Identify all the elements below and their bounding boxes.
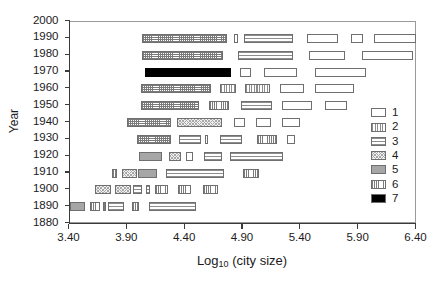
- bar-1990-6: [374, 34, 417, 43]
- bar-1890-3: [103, 202, 106, 211]
- bar-1910-2: [122, 169, 137, 178]
- bar-1910-1: [112, 169, 117, 178]
- bar-1920-3: [186, 152, 193, 161]
- bar-1960-3: [245, 84, 269, 93]
- bar-1900-2: [115, 185, 131, 194]
- x-tick-5.40: [299, 224, 300, 229]
- legend-item-4[interactable]: 4: [371, 150, 398, 162]
- x-axis-title: Log10 (city size): [69, 253, 416, 268]
- bar-1980-3: [309, 51, 345, 60]
- legend-swatch-stipple-icon: [371, 151, 386, 160]
- bar-1900-3: [133, 185, 142, 194]
- legend-item-2[interactable]: 2: [371, 121, 398, 133]
- bar-1890-5: [132, 202, 139, 211]
- bar-1920-1: [139, 152, 162, 161]
- bar-1960-5: [315, 84, 354, 93]
- plot-inner: [70, 22, 415, 222]
- bar-1900-6: [178, 185, 191, 194]
- plot-area: [69, 21, 416, 223]
- legend-swatch-vertical-stripes-icon: [371, 123, 386, 132]
- bar-1900-7: [203, 185, 218, 194]
- bar-1930-6: [287, 135, 295, 144]
- y-tick-label-1970: 1970: [1, 65, 59, 77]
- bar-1900-4: [146, 185, 151, 194]
- legend-label-3: 3: [392, 136, 398, 148]
- y-tick-label-2000: 2000: [1, 15, 59, 27]
- bar-1890-4: [108, 202, 124, 211]
- bar-1940-4: [256, 118, 271, 127]
- bar-1980-1: [142, 51, 223, 60]
- y-tick-label-1950: 1950: [1, 99, 59, 111]
- bar-1990-4: [307, 34, 338, 43]
- bar-1940-2: [177, 118, 222, 127]
- bar-1990-5: [351, 34, 364, 43]
- bar-1970-3: [264, 68, 298, 77]
- bar-1930-2: [179, 135, 201, 144]
- y-tick-label-1960: 1960: [1, 82, 59, 94]
- bar-1980-2: [238, 51, 292, 60]
- legend-label-1: 1: [392, 107, 398, 119]
- bar-1950-5: [325, 101, 347, 110]
- y-tick-label-1920: 1920: [1, 149, 59, 161]
- bar-1930-1: [137, 135, 172, 144]
- y-tick-label-1880: 1880: [1, 217, 59, 229]
- bar-1970-2: [240, 68, 252, 77]
- bar-1900-1: [95, 185, 111, 194]
- bar-1950-4: [282, 101, 312, 110]
- legend-swatch-fine-vertical-grid-icon: [371, 180, 386, 189]
- bar-1930-5: [257, 135, 277, 144]
- x-tick-5.90: [357, 224, 358, 229]
- chart-root: Year 18801890190019101920193019401950196…: [0, 0, 446, 284]
- x-axis-title-subscript: 10: [219, 259, 229, 269]
- legend-label-7: 7: [392, 193, 398, 205]
- x-tick-3.90: [126, 224, 127, 229]
- bar-1990-1: [142, 34, 226, 43]
- legend-item-6[interactable]: 6: [371, 179, 398, 191]
- legend-item-1[interactable]: 1: [371, 107, 398, 119]
- x-tick-4.90: [241, 224, 242, 229]
- bar-1940-5: [282, 118, 299, 127]
- y-tick-label-1890: 1890: [1, 200, 59, 212]
- bar-1910-4: [166, 169, 225, 178]
- bar-1960-4: [280, 84, 304, 93]
- legend-label-2: 2: [392, 121, 398, 133]
- bar-1920-2: [169, 152, 181, 161]
- x-tick-label-4.90: 4.90: [212, 232, 272, 244]
- bar-1940-1: [127, 118, 171, 127]
- bar-1960-1: [141, 84, 210, 93]
- bar-1920-5: [230, 152, 283, 161]
- bar-1910-5: [243, 169, 259, 178]
- legend-swatch-solid-black-icon: [371, 194, 386, 203]
- legend-swatch-horizontal-stripes-icon: [371, 137, 386, 146]
- bar-1890-6: [149, 202, 195, 211]
- bar-1980-4: [362, 51, 413, 60]
- bar-1940-3: [234, 118, 246, 127]
- x-tick-label-3.40: 3.40: [39, 232, 99, 244]
- bar-1930-3: [205, 135, 208, 144]
- bar-1970-4: [315, 68, 366, 77]
- y-tick-label-1910: 1910: [1, 166, 59, 178]
- legend-swatch-empty-icon: [371, 108, 386, 117]
- legend-item-3[interactable]: 3: [371, 136, 398, 148]
- bar-1930-4: [220, 135, 242, 144]
- legend-swatch-solid-gray-icon: [371, 165, 386, 174]
- x-tick-label-4.40: 4.40: [154, 232, 214, 244]
- y-tick-label-1980: 1980: [1, 48, 59, 60]
- x-axis-title-base: Log: [197, 253, 219, 268]
- x-tick-3.40: [68, 224, 69, 229]
- legend-item-7[interactable]: 7: [371, 193, 398, 205]
- bar-1960-2: [220, 84, 236, 93]
- bar-1920-4: [204, 152, 223, 161]
- y-tick-label-1900: 1900: [1, 183, 59, 195]
- legend-label-5: 5: [392, 164, 398, 176]
- x-tick-6.40: [415, 224, 416, 229]
- bar-1950-3: [241, 101, 272, 110]
- bar-1890-2: [90, 202, 99, 211]
- x-tick-label-3.90: 3.90: [96, 232, 156, 244]
- x-tick-label-6.40: 6.40: [386, 232, 446, 244]
- x-tick-label-5.40: 5.40: [270, 232, 330, 244]
- x-tick-label-5.90: 5.90: [328, 232, 388, 244]
- legend-item-5[interactable]: 5: [371, 164, 398, 176]
- y-tick-label-1990: 1990: [1, 31, 59, 43]
- legend-label-6: 6: [392, 179, 398, 191]
